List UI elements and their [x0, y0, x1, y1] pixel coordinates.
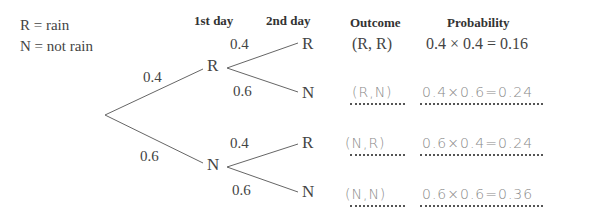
outcome-rn: (R,N)	[352, 84, 393, 100]
node-rn: N	[302, 83, 314, 103]
prob-nr: 0.4	[230, 135, 249, 152]
prob-first-n: 0.6	[140, 148, 159, 165]
answer-line-outcome-nr	[350, 154, 405, 156]
outcome-rr: (R, R)	[352, 35, 392, 53]
outcome-nr: (N,R)	[345, 135, 386, 151]
node-first-r: R	[207, 56, 218, 76]
prob-rn: 0.6	[233, 83, 252, 100]
header-outcome: Outcome	[350, 15, 401, 31]
answer-line-prob-nn	[420, 205, 543, 207]
header-probability: Probability	[447, 15, 510, 31]
header-1st-day: 1st day	[194, 13, 233, 29]
node-nn: N	[302, 182, 314, 202]
answer-line-prob-rn	[420, 103, 543, 105]
probability-nr: 0.6×0.4=0.24	[422, 135, 533, 151]
answer-line-outcome-rn	[350, 103, 405, 105]
key-not-rain: N = not rain	[20, 38, 93, 55]
node-rr: R	[302, 34, 313, 54]
probability-rn: 0.4×0.6=0.24	[422, 84, 533, 100]
prob-rr: 0.4	[230, 36, 249, 53]
outcome-nn: (N,N)	[345, 186, 386, 202]
prob-first-r: 0.4	[143, 69, 162, 86]
answer-line-outcome-nn	[350, 205, 405, 207]
probability-rr: 0.4 × 0.4 = 0.16	[426, 35, 528, 53]
node-first-n: N	[207, 155, 219, 175]
key-rain: R = rain	[20, 17, 69, 34]
header-2nd-day: 2nd day	[266, 13, 310, 29]
node-nr: R	[302, 133, 313, 153]
probability-nn: 0.6×0.6=0.36	[422, 186, 533, 202]
prob-nn: 0.6	[232, 182, 251, 199]
answer-line-prob-nr	[420, 154, 543, 156]
